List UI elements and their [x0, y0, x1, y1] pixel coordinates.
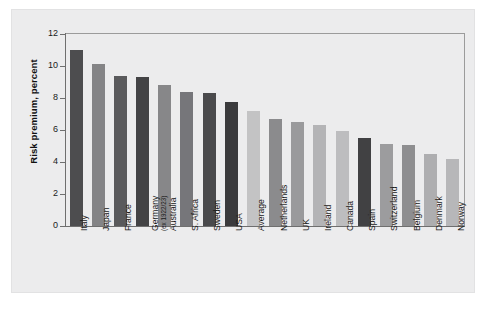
x-tick-label: Japan: [102, 208, 111, 231]
y-tick-label: 0: [36, 221, 58, 230]
chart-panel: Risk premium, percent 024681012 ItalyJap…: [11, 9, 475, 293]
x-tick-label: Belgium: [413, 200, 422, 231]
x-tick-label: Ireland: [324, 205, 333, 231]
chart-figure: Risk premium, percent 024681012 ItalyJap…: [0, 0, 486, 312]
x-tick-label: Italy: [80, 215, 89, 231]
bar: [70, 50, 83, 226]
x-tick-label: Average: [257, 199, 266, 231]
x-tick-label: Spain: [368, 209, 377, 231]
bar: [225, 102, 238, 226]
x-tick-label: S. Africa: [191, 199, 200, 231]
x-tick-label: Canada: [346, 201, 355, 231]
x-tick-label: Australia: [169, 198, 178, 231]
x-tick-label: Switzerland: [390, 187, 399, 231]
x-tick-label: Germany(ex 1922/23): [151, 196, 167, 231]
y-tick-label: 2: [36, 189, 58, 198]
bar: [136, 77, 149, 226]
plot-area: [65, 34, 464, 226]
x-tick-label: Sweden: [213, 200, 222, 231]
y-tick-label: 6: [36, 125, 58, 134]
y-tick-label: 8: [36, 93, 58, 102]
y-tick-mark: [60, 226, 65, 227]
bar: [291, 122, 304, 226]
y-tick-label: 4: [36, 157, 58, 166]
y-tick-label: 12: [36, 29, 58, 38]
x-tick-sublabel: (ex 1922/23): [160, 196, 167, 231]
x-tick-label: Netherlands: [280, 185, 289, 231]
plot-border-right: [464, 33, 465, 227]
bar: [92, 64, 105, 226]
y-tick-label: 10: [36, 61, 58, 70]
x-tick-label: France: [124, 204, 133, 231]
x-tick-label: USA: [235, 213, 244, 231]
x-tick-label: Norway: [457, 202, 466, 231]
x-tick-label: Denmark: [435, 196, 444, 231]
x-tick-label: UK: [302, 219, 311, 231]
